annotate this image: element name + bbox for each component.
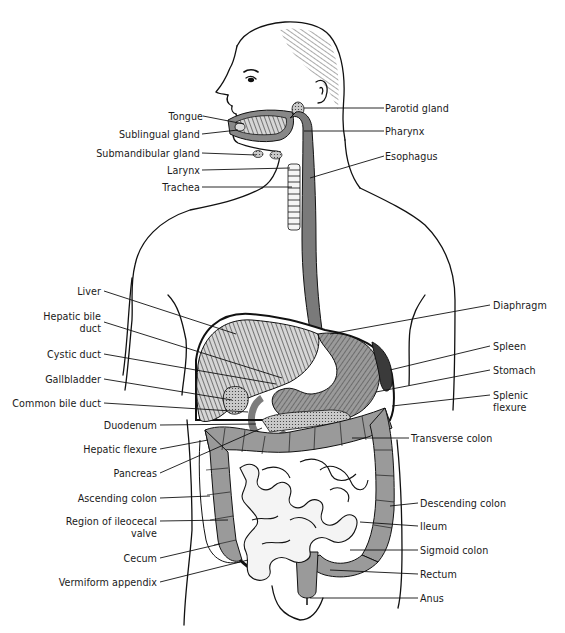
label-diaphragm: Diaphragm <box>493 300 547 312</box>
label-gallbladder: Gallbladder <box>45 374 101 386</box>
label-duodenum: Duodenum <box>104 420 157 432</box>
hair-shading <box>280 28 339 110</box>
label-transverse-colon: Transverse colon <box>411 433 492 445</box>
label-pancreas: Pancreas <box>113 468 157 480</box>
label-ileum: Ileum <box>420 521 447 533</box>
label-rectum: Rectum <box>420 569 457 581</box>
label-region-of-ileocecal-valve: Region of ileocecal valve <box>66 516 157 539</box>
label-larynx: Larynx <box>167 165 200 177</box>
label-sigmoid-colon: Sigmoid colon <box>420 545 488 557</box>
large-intestine <box>199 408 394 598</box>
label-spleen: Spleen <box>493 341 526 353</box>
label-common-bile-duct: Common bile duct <box>12 398 101 410</box>
label-ascending-colon: Ascending colon <box>78 493 157 505</box>
label-anus: Anus <box>420 593 444 605</box>
trachea-shape <box>288 164 300 230</box>
label-parotid-gland: Parotid gland <box>385 103 449 115</box>
label-stomach: Stomach <box>493 365 536 377</box>
label-liver: Liver <box>77 286 101 298</box>
label-esophagus: Esophagus <box>385 151 438 163</box>
label-cystic-duct: Cystic duct <box>47 349 101 361</box>
label-hepatic-flexure: Hepatic flexure <box>83 444 157 456</box>
label-descending-colon: Descending colon <box>420 498 506 510</box>
label-tongue: Tongue <box>168 111 203 123</box>
label-trachea: Trachea <box>162 182 200 194</box>
label-submandibular-gland: Submandibular gland <box>96 148 200 160</box>
gallbladder-shape <box>223 387 248 415</box>
label-hepatic-bile-duct: Hepatic bile duct <box>43 311 101 334</box>
label-sublingual-gland: Sublingual gland <box>119 129 200 141</box>
label-cecum: Cecum <box>123 553 157 565</box>
label-splenic-flexure: Splenic flexure <box>493 390 528 413</box>
head-outline <box>216 22 360 188</box>
submandibular-gland-shape <box>253 151 263 158</box>
label-pharynx: Pharynx <box>385 126 424 138</box>
label-vermiform-appendix: Vermiform appendix <box>59 577 157 589</box>
